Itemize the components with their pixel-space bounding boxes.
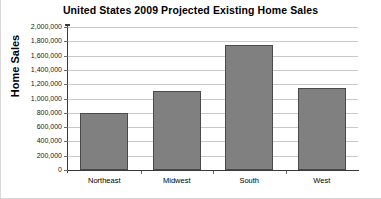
bar-northeast — [80, 113, 128, 170]
y-tick-mark — [64, 156, 68, 157]
bar-west — [298, 88, 346, 170]
gridline — [68, 84, 358, 85]
y-tick-mark — [64, 127, 68, 128]
y-tick-label: 800,000 — [37, 109, 62, 116]
x-tick-mark — [286, 171, 287, 174]
y-tick-mark — [64, 70, 68, 71]
x-tick-label: West — [282, 176, 362, 185]
plot-area — [68, 27, 358, 170]
y-tick-label: 1,800,000 — [31, 37, 62, 44]
bar-south — [225, 45, 273, 170]
y-tick-label: 1,200,000 — [31, 80, 62, 87]
y-tick-mark — [64, 56, 68, 57]
y-tick-mark — [64, 84, 68, 85]
x-tick-label: Northeast — [64, 176, 144, 185]
gridline — [68, 41, 358, 42]
y-axis-tick-labels: 0200,000400,000600,000800,0001,000,0001,… — [0, 0, 62, 199]
bar-chart-figure: United States 2009 Projected Existing Ho… — [0, 0, 381, 199]
y-tick-mark — [64, 99, 68, 100]
y-tick-label: 1,600,000 — [31, 52, 62, 59]
y-tick-mark — [64, 27, 68, 28]
y-tick-mark — [64, 170, 68, 171]
y-tick-label: 1,000,000 — [31, 95, 62, 102]
y-tick-label: 200,000 — [37, 152, 62, 159]
y-tick-label: 400,000 — [37, 137, 62, 144]
x-tick-mark — [213, 171, 214, 174]
gridline — [68, 56, 358, 57]
bar-midwest — [153, 91, 201, 170]
y-tick-label: 1,400,000 — [31, 66, 62, 73]
y-tick-label: 600,000 — [37, 123, 62, 130]
x-tick-label: South — [209, 176, 289, 185]
x-tick-label: Midwest — [137, 176, 217, 185]
y-axis-top-cap — [65, 24, 70, 26]
y-tick-label: 0 — [58, 166, 62, 173]
gridline — [68, 27, 358, 28]
y-tick-label: 2,000,000 — [31, 23, 62, 30]
x-tick-mark — [141, 171, 142, 174]
y-tick-mark — [64, 141, 68, 142]
y-tick-mark — [64, 41, 68, 42]
gridline — [68, 70, 358, 71]
y-tick-mark — [64, 113, 68, 114]
